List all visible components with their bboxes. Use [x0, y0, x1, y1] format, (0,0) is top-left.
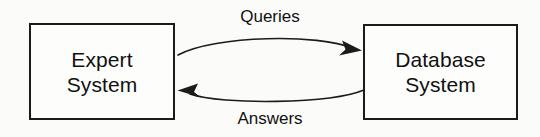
edge-queries-path — [178, 39, 352, 55]
node-database-system-line-2: System — [405, 72, 476, 97]
node-expert-system-line-2: System — [67, 72, 138, 97]
node-expert-system[interactable]: Expert System — [29, 23, 175, 120]
node-database-system[interactable]: Database System — [363, 24, 518, 120]
node-database-system-line-1: Database — [395, 47, 486, 72]
edge-queries-arrowhead — [339, 41, 362, 56]
diagram-canvas: Expert System Database System Queries An… — [0, 0, 540, 137]
edge-answers-path — [190, 90, 364, 101]
edge-answers — [178, 84, 365, 102]
edge-answers-arrowhead — [178, 84, 202, 98]
node-expert-system-line-1: Expert — [71, 47, 132, 72]
edge-label-queries: Queries — [0, 7, 540, 27]
edge-queries — [178, 39, 362, 56]
edge-label-answers: Answers — [0, 109, 540, 129]
